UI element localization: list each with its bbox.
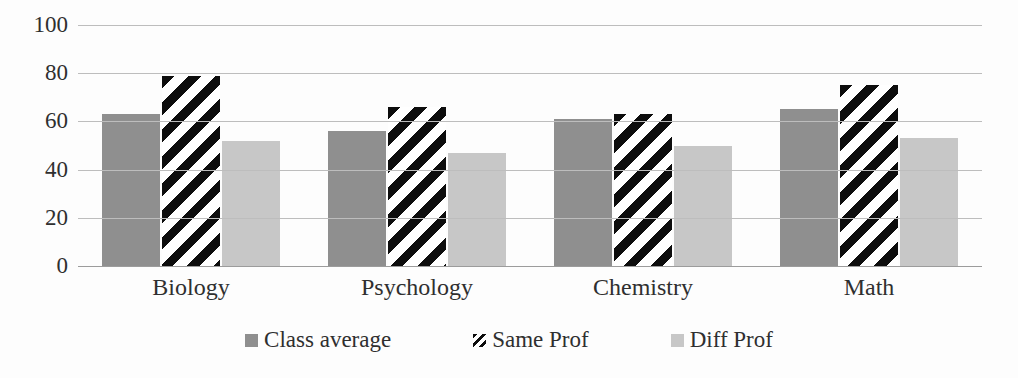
- gridline-y-20: [78, 218, 982, 219]
- y-tick-label-60: 60: [45, 108, 68, 134]
- bar-group-math: [756, 25, 982, 266]
- bar-math-same-prof: [840, 85, 898, 266]
- bar-group-psychology: [304, 25, 530, 266]
- legend-label: Class average: [264, 327, 391, 353]
- gridline-y-80: [78, 73, 982, 74]
- gridline-y-0: [78, 266, 982, 267]
- legend-entry-class-average: Class average: [245, 327, 391, 353]
- bar-biology-same-prof: [162, 76, 220, 266]
- bar-groups: [78, 25, 982, 266]
- legend-entry-same-prof: Same Prof: [473, 327, 588, 353]
- y-tick-label-0: 0: [57, 253, 69, 279]
- bar-chemistry-diff-prof: [674, 146, 732, 267]
- x-label-chemistry: Chemistry: [530, 274, 756, 301]
- y-tick-label-40: 40: [45, 157, 68, 183]
- legend-swatch-icon: [245, 334, 258, 347]
- bar-math-diff-prof: [900, 138, 958, 266]
- bar-chemistry-same-prof: [614, 114, 672, 266]
- bar-psychology-class-average: [328, 131, 386, 266]
- x-label-psychology: Psychology: [304, 274, 530, 301]
- y-tick-label-80: 80: [45, 60, 68, 86]
- x-axis-labels: BiologyPsychologyChemistryMath: [78, 274, 982, 301]
- bar-biology-class-average: [102, 114, 160, 266]
- legend-swatch-icon: [473, 334, 486, 347]
- y-tick-label-100: 100: [34, 12, 69, 38]
- legend-swatch-icon: [671, 334, 684, 347]
- legend-entry-diff-prof: Diff Prof: [671, 327, 773, 353]
- bar-biology-diff-prof: [222, 141, 280, 266]
- legend-label: Diff Prof: [690, 327, 773, 353]
- bar-math-class-average: [780, 109, 838, 266]
- bar-group-chemistry: [530, 25, 756, 266]
- gridline-y-60: [78, 121, 982, 122]
- gridline-y-40: [78, 170, 982, 171]
- bar-group-biology: [78, 25, 304, 266]
- gridline-y-100: [78, 25, 982, 26]
- x-label-math: Math: [756, 274, 982, 301]
- plot-area: [78, 25, 982, 266]
- chart-legend: Class averageSame ProfDiff Prof: [0, 327, 1018, 353]
- bar-psychology-same-prof: [388, 107, 446, 266]
- y-axis: 020406080100: [0, 25, 68, 266]
- grouped-bar-chart: 020406080100 BiologyPsychologyChemistryM…: [0, 0, 1018, 378]
- legend-label: Same Prof: [492, 327, 588, 353]
- y-tick-label-20: 20: [45, 205, 68, 231]
- x-label-biology: Biology: [78, 274, 304, 301]
- bar-chemistry-class-average: [554, 119, 612, 266]
